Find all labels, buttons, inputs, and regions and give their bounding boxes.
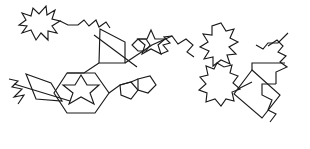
drawing-canvas: [0, 0, 310, 149]
abstract-line-figure: [0, 0, 310, 149]
canvas-background: [0, 0, 310, 149]
